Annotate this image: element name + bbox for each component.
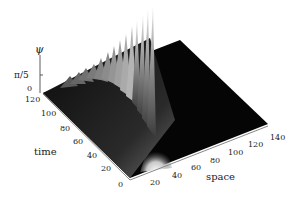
space-tick: 120 (248, 140, 263, 149)
time-tick: 60 (73, 137, 83, 146)
space-tick: 20 (150, 178, 160, 187)
z-axis-label: ψ (35, 43, 44, 56)
space-axis-label: space (206, 171, 235, 182)
time-tick: 20 (101, 164, 111, 173)
time-tick: 0 (118, 180, 123, 189)
time-tick: 40 (87, 151, 97, 160)
z-tick-label-pi5: π/5 (14, 70, 29, 80)
space-tick: 60 (191, 163, 201, 172)
surface-plot: ψ π/5 0 0 20 40 60 80 100 120 time 20 40… (0, 0, 301, 201)
time-axis-label: time (34, 146, 57, 157)
time-tick: 100 (41, 109, 56, 118)
time-tick: 120 (25, 95, 40, 104)
space-tick: 100 (228, 148, 243, 157)
space-tick: 40 (172, 171, 182, 180)
space-tick: 140 (270, 133, 285, 142)
time-tick: 80 (60, 124, 70, 133)
space-tick: 80 (210, 156, 220, 165)
z-tick-label-0: 0 (27, 84, 32, 93)
